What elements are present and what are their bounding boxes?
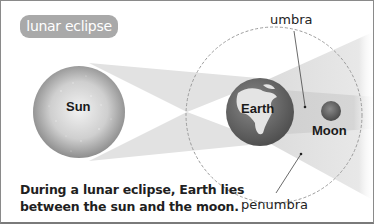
sun-label: Sun [66,99,91,114]
penumbra-pointer-line [276,154,301,193]
umbra-pointer-dot [304,106,307,109]
penumbra-pointer-dot [300,153,303,156]
penumbra-label: penumbra [241,197,308,212]
caption-line-1: During a lunar eclipse, Earth lies [20,181,244,198]
umbra-label: umbra [270,12,312,27]
moon-label: Moon [312,123,347,138]
moon [321,101,341,121]
lunar-eclipse-diagram: lunar eclipse Sun Earth Moon umbra penum… [0,0,374,224]
earth-label: Earth [241,101,274,116]
caption-line-2: between the sun and the moon. [20,198,244,215]
caption: During a lunar eclipse, Earth lies betwe… [20,181,244,215]
diagram-title: lunar eclipse [20,15,118,38]
